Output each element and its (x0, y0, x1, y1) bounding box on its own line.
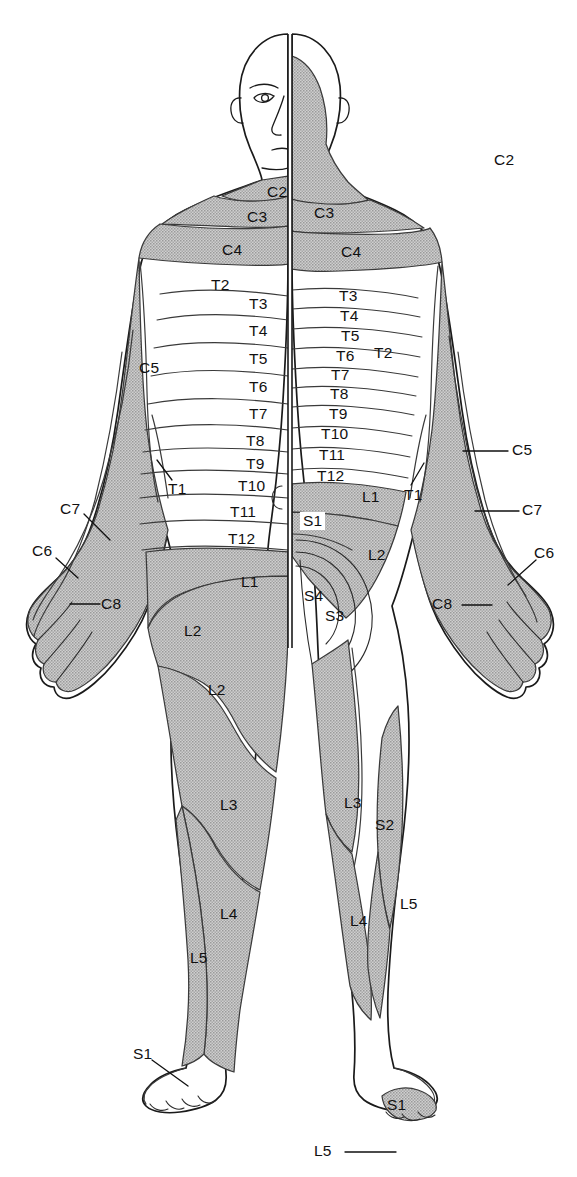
label-c5-right: C5 (512, 442, 532, 458)
label-s3-sacral: S3 (325, 608, 344, 624)
label-t6-left: T6 (249, 379, 268, 395)
label-c4-anterior: C4 (222, 242, 242, 258)
posterior-c3-region (292, 199, 424, 233)
dermatome-drawing (0, 0, 577, 1177)
label-c8-right: C8 (432, 596, 452, 612)
label-l4-right: L4 (350, 913, 368, 929)
label-t8-left: T8 (246, 433, 265, 449)
label-t9-right: T9 (329, 406, 348, 422)
label-t11-right: T11 (319, 447, 345, 463)
label-l3-right: L3 (344, 795, 362, 811)
label-t12-left: T12 (228, 531, 255, 547)
label-c4-posterior: C4 (341, 244, 361, 260)
label-s1-foot-left: S1 (133, 1046, 152, 1062)
label-t11-left: T11 (230, 504, 256, 520)
label-t5-left: T5 (249, 351, 268, 367)
label-t3-right: T3 (339, 288, 358, 304)
label-t6-right: T6 (336, 348, 355, 364)
label-l5-right-calf: L5 (400, 896, 418, 912)
label-t1-right: T1 (404, 487, 423, 503)
label-t9-left: T9 (246, 456, 265, 472)
label-c5-left: C5 (139, 360, 159, 376)
label-c2-posterior: C2 (494, 152, 514, 168)
anterior-c3-region (162, 196, 288, 227)
label-l1-right: L1 (362, 489, 380, 505)
anterior-c4-region (139, 224, 288, 265)
label-t4-right: T4 (340, 308, 359, 324)
label-s4-sacral: S4 (304, 588, 323, 604)
label-t3-left: T3 (249, 296, 268, 312)
label-t10-right: T10 (321, 426, 348, 442)
label-t2-left: T2 (211, 277, 230, 293)
label-c8-left: C8 (101, 596, 121, 612)
label-l1-left: L1 (241, 574, 259, 590)
label-l5-foot-right: L5 (314, 1143, 332, 1159)
label-l4-left: L4 (220, 906, 238, 922)
label-s1-sacral: S1 (300, 512, 325, 530)
posterior-l3-thigh-region (312, 640, 359, 852)
label-c7-left: C7 (60, 501, 80, 517)
label-c6-right: C6 (534, 545, 554, 561)
label-t8-right: T8 (330, 386, 349, 402)
label-c7-right: C7 (522, 502, 542, 518)
label-c2-anterior: C2 (267, 184, 287, 200)
label-s1-foot-right: S1 (387, 1097, 406, 1113)
label-l3-left: L3 (220, 797, 238, 813)
dermatome-figure: C2 C2 C3 C3 C4 C4 T2 T3 T4 T5 T6 T7 T8 T… (0, 0, 577, 1177)
posterior-c4-region (292, 228, 442, 271)
label-c6-left: C6 (32, 543, 52, 559)
label-s2-right: S2 (375, 817, 394, 833)
label-l2-right: L2 (368, 547, 386, 563)
label-t5-right: T5 (341, 328, 360, 344)
label-l5-left: L5 (190, 950, 208, 966)
label-t7-left: T7 (249, 406, 268, 422)
label-t12-right: T12 (317, 468, 344, 484)
label-t1-left: T1 (168, 481, 187, 497)
label-c3-anterior: C3 (247, 209, 267, 225)
label-t7-right: T7 (331, 367, 350, 383)
label-l2-thigh-left: L2 (208, 682, 226, 698)
posterior-half (292, 34, 553, 1121)
label-l2-left: L2 (184, 623, 202, 639)
label-t4-left: T4 (249, 323, 268, 339)
label-t10-left: T10 (238, 478, 265, 494)
label-c3-posterior: C3 (314, 205, 334, 221)
label-t2-right: T2 (374, 345, 393, 361)
